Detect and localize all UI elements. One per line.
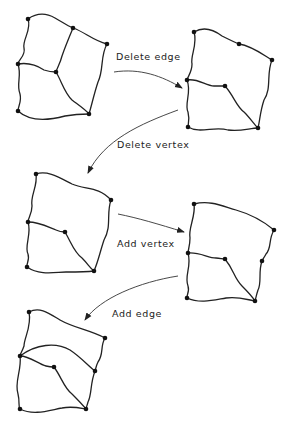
arrow-add-vertex bbox=[118, 214, 184, 232]
label-delete-edge: Delete edge bbox=[116, 51, 181, 62]
graph-operations-diagram bbox=[0, 0, 288, 428]
arrow-delete-edge bbox=[114, 71, 182, 88]
graph-after-delete-edge bbox=[185, 29, 275, 131]
graph-original bbox=[16, 14, 110, 119]
label-add-edge: Add edge bbox=[112, 308, 162, 319]
label-add-vertex: Add vertex bbox=[117, 238, 175, 249]
graph-after-add-vertex bbox=[185, 202, 277, 304]
label-delete-vertex: Delete vertex bbox=[117, 139, 189, 150]
graph-after-delete-vertex bbox=[25, 172, 114, 274]
graph-after-add-edge bbox=[17, 310, 107, 413]
